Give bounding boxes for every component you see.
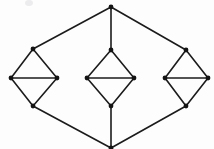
graph-figure — [0, 0, 214, 149]
graph-vertex-m_top — [109, 48, 114, 53]
graph-vertex-l_top — [31, 47, 36, 52]
graph-vertex-bottom — [109, 146, 114, 149]
graph-vertex-l_bottom — [31, 104, 36, 109]
graph-vertex-r_top — [184, 48, 189, 53]
graph-vertex-l_right — [55, 76, 60, 81]
graph-vertex-r_bottom — [184, 104, 189, 109]
graph-edge — [111, 106, 186, 148]
graph-edge — [186, 50, 208, 78]
graph-vertex-m_left — [85, 76, 90, 81]
graph-edge — [11, 78, 33, 106]
graph-edge — [111, 7, 186, 50]
graph-vertex-top — [109, 5, 114, 10]
graph-vertex-r_left — [163, 76, 168, 81]
graph-edge — [165, 50, 186, 78]
graph-vertex-layer — [9, 5, 211, 149]
graph-edge — [165, 78, 186, 106]
graph-edge — [11, 49, 33, 78]
graph-edge — [33, 49, 57, 78]
graph-vertex-l_left — [9, 76, 14, 81]
graph-edge-layer — [11, 7, 208, 148]
graph-edge — [111, 78, 134, 106]
graph-edge — [33, 78, 57, 106]
graph-edge — [33, 7, 111, 49]
graph-edge — [186, 78, 208, 106]
graph-edge — [87, 50, 111, 78]
graph-edge — [87, 78, 111, 106]
graph-edge — [33, 106, 111, 148]
scan-artifact-layer — [25, 0, 33, 6]
scan-speck — [25, 0, 33, 6]
graph-vertex-r_right — [206, 76, 211, 81]
graph-vertex-m_right — [132, 76, 137, 81]
graph-edge — [111, 50, 134, 78]
graph-vertex-m_bottom — [109, 104, 114, 109]
graph-canvas — [0, 0, 214, 149]
